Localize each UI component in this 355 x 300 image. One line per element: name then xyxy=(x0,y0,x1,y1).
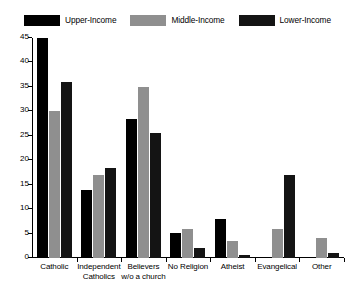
bar-group xyxy=(299,38,344,258)
bar xyxy=(284,175,295,258)
y-tick-label: 35 xyxy=(20,81,29,90)
y-tick-label: 30 xyxy=(20,105,29,114)
bar xyxy=(49,111,60,258)
x-axis-label-line: Believers xyxy=(121,262,166,272)
x-axis-label: Evangelical xyxy=(255,262,300,272)
bar xyxy=(194,248,205,258)
bar xyxy=(150,133,161,258)
x-axis-label: Atheist xyxy=(210,262,255,272)
bar xyxy=(61,82,72,258)
y-tick-label: 45 xyxy=(20,32,29,41)
bar xyxy=(37,38,48,258)
legend-swatch-lower-income xyxy=(239,15,275,26)
y-tick-label: 40 xyxy=(20,56,29,65)
bar xyxy=(105,168,116,258)
legend-item-upper-income: Upper-Income xyxy=(24,15,116,26)
bar-group xyxy=(210,38,255,258)
bar xyxy=(170,233,181,258)
bar xyxy=(93,175,104,258)
x-axis-label: No Religion xyxy=(166,262,211,272)
x-axis-label-line: Evangelical xyxy=(255,262,300,272)
legend-label-lower-income: Lower-Income xyxy=(280,15,331,25)
x-axis-label: Other xyxy=(299,262,344,272)
y-tick-label: 5 xyxy=(25,228,29,237)
x-axis-label-line: Other xyxy=(299,262,344,272)
bar-group xyxy=(77,38,122,258)
legend-label-middle-income: Middle-Income xyxy=(171,15,224,25)
x-tick-mark xyxy=(344,258,345,262)
bar xyxy=(239,255,250,258)
legend-swatch-middle-income xyxy=(130,15,166,26)
legend-item-middle-income: Middle-Income xyxy=(130,15,224,26)
bar xyxy=(328,253,339,258)
chart-legend: Upper-Income Middle-Income Lower-Income xyxy=(0,12,355,28)
x-axis-label-line: Catholic xyxy=(32,262,77,272)
y-tick-label: 25 xyxy=(20,130,29,139)
bar-group xyxy=(32,38,77,258)
bar-group xyxy=(166,38,211,258)
y-tick-label: 15 xyxy=(20,179,29,188)
legend-label-upper-income: Upper-Income xyxy=(65,15,116,25)
x-axis-label-line: Catholics xyxy=(77,272,122,282)
bar xyxy=(316,238,327,258)
bar-group xyxy=(121,38,166,258)
x-axis-label-line: w/o a church xyxy=(121,272,166,282)
bar xyxy=(81,190,92,258)
bar xyxy=(272,229,283,258)
legend-item-lower-income: Lower-Income xyxy=(239,15,331,26)
bar xyxy=(126,119,137,258)
bar xyxy=(182,229,193,258)
y-tick-label: 10 xyxy=(20,203,29,212)
legend-swatch-upper-income xyxy=(24,15,60,26)
bar xyxy=(138,87,149,258)
grouped-bar-chart: Upper-Income Middle-Income Lower-Income … xyxy=(0,0,355,300)
x-axis-label: Believersw/o a church xyxy=(121,262,166,281)
x-axis-label-line: Independent xyxy=(77,262,122,272)
x-axis-label-line: No Religion xyxy=(166,262,211,272)
bar xyxy=(227,241,238,258)
bar xyxy=(215,219,226,258)
x-axis-label: IndependentCatholics xyxy=(77,262,122,281)
bar-group xyxy=(255,38,300,258)
y-tick-label: 0 xyxy=(25,252,29,261)
y-tick-label: 20 xyxy=(20,154,29,163)
x-axis-label: Catholic xyxy=(32,262,77,272)
plot-area: 051015202530354045 xyxy=(32,38,344,258)
x-axis-label-line: Atheist xyxy=(210,262,255,272)
x-axis-labels: CatholicIndependentCatholicsBelieversw/o… xyxy=(32,262,344,298)
